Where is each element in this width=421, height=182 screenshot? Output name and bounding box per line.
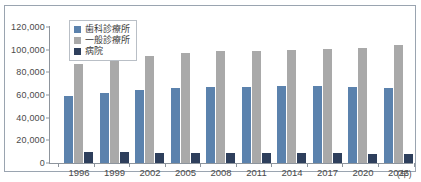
x-tick-label: 2005 <box>175 167 196 178</box>
bar-dental <box>206 87 215 163</box>
y-tick-label: 40,000 <box>16 113 45 123</box>
bar-hosp <box>120 152 129 163</box>
legend-label: 一般診療所 <box>85 35 130 46</box>
x-tick-mark <box>378 163 379 167</box>
bar-hosp <box>226 153 235 163</box>
x-tick-label: 2020 <box>352 167 373 178</box>
bar-general <box>74 64 83 163</box>
legend-item: 一般診療所 <box>74 35 130 46</box>
x-tick-label: 1999 <box>104 167 125 178</box>
bar-general <box>323 49 332 163</box>
x-tick-label: 2002 <box>139 167 160 178</box>
x-tick-label: 2014 <box>281 167 302 178</box>
bar-hosp <box>368 154 377 163</box>
x-tick-label: 2011 <box>246 167 266 178</box>
x-axis-line <box>49 163 413 164</box>
x-tick-mark <box>58 163 59 167</box>
x-tick-mark <box>94 163 95 167</box>
bar-group <box>382 27 416 163</box>
bar-dental <box>135 90 144 163</box>
bar-dental <box>348 87 357 163</box>
bar-dental <box>313 86 322 163</box>
bar-group <box>204 27 238 163</box>
y-tick-label: 20,000 <box>16 135 45 145</box>
x-tick-mark <box>129 163 130 167</box>
y-tick-label: 80,000 <box>16 67 45 77</box>
legend-label: 病院 <box>85 46 103 57</box>
legend-swatch-icon <box>74 37 81 44</box>
x-tick-mark <box>236 163 237 167</box>
x-axis-unit-label: (年) <box>397 167 412 179</box>
x-tick-label: 2008 <box>210 167 231 178</box>
bar-general <box>358 48 367 163</box>
bar-general <box>287 50 296 163</box>
legend-item: 病院 <box>74 46 130 57</box>
bar-dental <box>171 88 180 163</box>
bar-dental <box>384 88 393 163</box>
bar-group <box>169 27 203 163</box>
bar-dental <box>64 96 73 163</box>
x-tick-mark <box>200 163 201 167</box>
bar-dental <box>242 87 251 164</box>
y-tick-label: 100,000 <box>11 45 45 55</box>
x-tick-label: 1996 <box>68 167 89 178</box>
bar-group <box>240 27 274 163</box>
x-tick-mark <box>414 163 415 167</box>
x-tick-mark <box>271 163 272 167</box>
bar-group <box>346 27 380 163</box>
bar-group <box>275 27 309 163</box>
bar-dental <box>100 93 109 163</box>
bar-hosp <box>262 153 271 163</box>
bar-general <box>145 56 154 163</box>
x-tick-label: 2017 <box>317 167 338 178</box>
legend-label: 歯科診療所 <box>85 24 130 35</box>
bar-hosp <box>84 152 93 163</box>
legend-swatch-icon <box>74 48 81 55</box>
bar-hosp <box>297 153 306 163</box>
bar-general <box>181 53 190 163</box>
bar-general <box>110 60 119 163</box>
y-tick-label: 0 <box>40 158 45 168</box>
bar-dental <box>277 86 286 163</box>
bar-hosp <box>155 153 164 163</box>
y-tick-label: 120,000 <box>11 22 45 32</box>
legend-swatch-icon <box>74 26 81 33</box>
bar-group <box>311 27 345 163</box>
legend-item: 歯科診療所 <box>74 24 130 35</box>
x-tick-mark <box>307 163 308 167</box>
chart-frame: 020,00040,00060,00080,000100,000120,000 … <box>4 5 416 172</box>
bar-general <box>252 51 261 163</box>
bar-hosp <box>191 153 200 163</box>
chart-legend: 歯科診療所一般診療所病院 <box>69 20 137 61</box>
chart-figure: 020,00040,00060,00080,000100,000120,000 … <box>0 0 421 182</box>
bar-hosp <box>404 154 413 163</box>
bar-hosp <box>333 153 342 163</box>
y-tick-label: 60,000 <box>16 90 45 100</box>
x-tick-mark <box>165 163 166 167</box>
bar-general <box>216 51 225 163</box>
bar-group <box>133 27 167 163</box>
bar-general <box>394 45 403 163</box>
x-tick-mark <box>342 163 343 167</box>
